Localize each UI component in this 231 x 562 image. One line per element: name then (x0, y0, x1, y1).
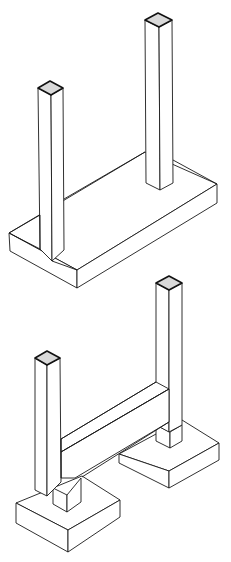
right-column-left-face (145, 20, 160, 190)
right-column-right-face (169, 283, 182, 432)
figure-combined-slab-footing (9, 13, 217, 288)
structural-diagram (0, 0, 231, 562)
right-column-right-face (159, 20, 173, 190)
figure-tie-beam-pad-footings (16, 276, 219, 552)
left-column-right-face (51, 88, 64, 261)
left-column-right-face (47, 358, 61, 496)
left-column-left-face (35, 358, 47, 496)
